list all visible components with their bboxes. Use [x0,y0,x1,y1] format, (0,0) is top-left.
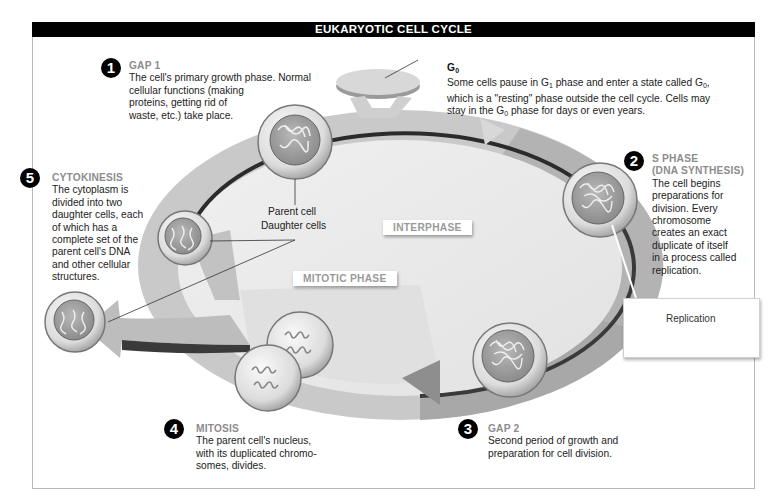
daughter-cells-label: Daughter cells [261,220,326,231]
s-phase-line: chromosome [652,215,744,227]
s-phase-line: division. Every [652,203,744,215]
daughter-cell-upper [158,211,212,265]
gap2-line: preparation for cell division. [488,448,618,460]
step-3-badge: 3 [458,419,478,439]
cytokinesis-description: CYTOKINESIS The cytoplasm is divided int… [52,172,143,284]
g0-description: G0 Some cells pause in G1 phase and ente… [447,62,710,121]
cytokinesis-line: of which has a [52,222,143,234]
s-phase-line: duplicate of itself [652,240,744,252]
gap2-cell [473,323,547,397]
gap2-heading: GAP 2 [488,423,618,435]
s-phase-line: preparations for [652,190,744,202]
cytokinesis-line: structures. [52,271,143,283]
mitosis-line: somes, divides. [196,460,317,472]
replication-label: Replication [666,313,715,324]
g0-resting-disc [336,60,420,118]
gap1-heading: GAP 1 [129,60,311,72]
g0-line: which is a "resting" phase outside the c… [447,93,710,105]
gap2-line: Second period of growth and [488,435,618,447]
mitosis-line: with its duplicated chromo- [196,448,317,460]
cytokinesis-line: daughter cells, each [52,209,143,221]
cytokinesis-line: divided into two [52,197,143,209]
mitosis-line: The parent cell's nucleus, [196,435,317,447]
gap1-line: The cell's primary growth phase. Normal [129,72,311,84]
cytokinesis-line: The cytoplasm is [52,184,143,196]
s-phase-line: The cell begins [652,178,744,190]
mitosis-description: MITOSIS The parent cell's nucleus, with … [196,423,317,473]
step-1-badge: 1 [101,58,121,78]
step-4-badge: 4 [164,419,184,439]
g0-heading: G0 [447,62,710,77]
s-phase-line: in a process called [652,252,744,264]
mitotic-phase-tag: MITOTIC PHASE [293,271,397,286]
s-phase-description: S PHASE (DNA SYNTHESIS) The cell begins … [652,153,744,277]
cytokinesis-line: and other cellular [52,259,143,271]
cycle-ring [85,110,663,420]
cytokinesis-heading: CYTOKINESIS [52,172,143,184]
gap1-line: proteins, getting rid of [129,97,311,109]
gap1-description: GAP 1 The cell's primary growth phase. N… [129,60,311,122]
replication-inset: Replication [623,298,760,358]
gap1-line: waste, etc.) take place. [129,110,311,122]
mitosis-heading: MITOSIS [196,423,317,435]
g0-line: Some cells pause in G1 phase and enter a… [447,77,710,92]
cytokinesis-line: complete set of the [52,234,143,246]
interphase-tag: INTERPHASE [383,220,472,235]
g0-line: stay in the G0 phase for days or even ye… [447,105,710,120]
s-phase-heading: (DNA SYNTHESIS) [652,165,744,177]
gap2-description: GAP 2 Second period of growth and prepar… [488,423,618,460]
daughter-cell-lower [45,292,105,352]
s-phase-line: replication. [652,265,744,277]
s-phase-line: creates an exact [652,227,744,239]
step-5-badge: 5 [20,168,40,188]
s-phase-heading: S PHASE [652,153,744,165]
gap1-line: cellular functions (making [129,85,311,97]
step-2-badge: 2 [624,151,644,171]
cytokinesis-line: parent cell's DNA [52,246,143,258]
parent-cell-label: Parent cell [268,206,316,217]
